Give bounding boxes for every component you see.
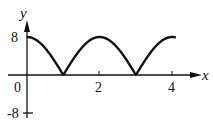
y-axis-label: y (18, 5, 27, 21)
x-tick-label-2: 2 (95, 80, 102, 95)
y-tick-label-8: 8 (11, 30, 18, 45)
y-axis-arrow-icon (24, 20, 30, 32)
chart: y x 8 0 2 4 -8 (0, 0, 213, 124)
y-tick-label-neg8: -8 (7, 106, 19, 121)
x-axis-arrow-icon (190, 72, 202, 78)
x-tick-label-4: 4 (168, 80, 175, 95)
data-curve (27, 37, 176, 75)
x-axis-label: x (201, 67, 209, 83)
origin-label: 0 (14, 80, 21, 95)
